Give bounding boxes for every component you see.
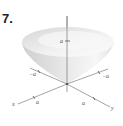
y-axis-positive — [67, 84, 110, 107]
y-pos-label: a — [82, 100, 85, 106]
cone-diagram: a −a −a a a x y — [0, 0, 123, 126]
y-axis-label: y — [110, 105, 114, 111]
x-neg-label: −a — [29, 71, 36, 77]
y-neg-label: −a — [102, 73, 109, 79]
cone-inner — [38, 31, 106, 49]
x-pos-label: a — [36, 99, 39, 105]
origin-point — [66, 83, 68, 85]
x-axis-positive — [18, 84, 67, 104]
x-axis-label: x — [11, 101, 15, 107]
z-tick-label-a: a — [60, 38, 63, 44]
